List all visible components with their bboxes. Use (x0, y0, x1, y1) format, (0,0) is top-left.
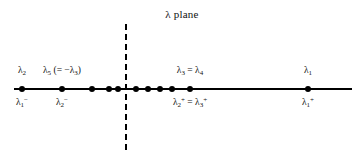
eigenvalue-label-above: λ3 = λ4 (177, 66, 203, 76)
eigenvalue-dot (106, 86, 112, 92)
eigenvalue-dot (145, 86, 151, 92)
eigenvalue-dot (89, 86, 95, 92)
imaginary-axis-dashed (125, 24, 127, 150)
eigenvalue-dot (305, 86, 311, 92)
eigenvalue-dot (169, 86, 175, 92)
eigenvalue-label-above: λ2 (18, 66, 26, 76)
eigenvalue-dot (19, 86, 25, 92)
figure-title: λ plane (0, 8, 364, 20)
eigenvalue-label-below: λ2+ = λ3+ (173, 98, 207, 108)
eigenvalue-label-above: λ1 (304, 66, 312, 76)
eigenvalue-label-below: λ1+ (302, 98, 314, 108)
lambda-plane-figure: λ plane λ2λ1−λ5 (= −λ3)λ2−λ3 = λ4λ2+ = λ… (0, 0, 364, 163)
eigenvalue-dot (133, 86, 139, 92)
eigenvalue-label-below: λ1− (16, 98, 28, 108)
eigenvalue-label-below: λ2− (56, 98, 68, 108)
eigenvalue-dot (187, 86, 193, 92)
eigenvalue-dot (59, 86, 65, 92)
eigenvalue-label-above: λ5 (= −λ3) (43, 66, 81, 76)
eigenvalue-dot (157, 86, 163, 92)
eigenvalue-dot (115, 86, 121, 92)
